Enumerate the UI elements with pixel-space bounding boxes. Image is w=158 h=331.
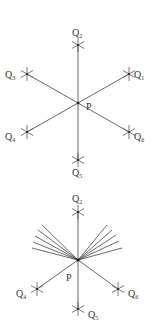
label-q3: Q3	[5, 69, 15, 81]
label-q6: Q6	[128, 288, 138, 300]
label-p: P	[86, 101, 92, 112]
label-q4: Q4	[16, 288, 26, 300]
label-q5: Q5	[72, 167, 82, 179]
fan-ray	[32, 248, 78, 260]
label-q6: Q6	[134, 131, 144, 143]
fan-ray	[33, 242, 78, 260]
label-q2: Q2	[72, 27, 82, 39]
line-p-q6	[78, 260, 118, 289]
line-p-q4	[37, 260, 78, 289]
fan-diagram: P Q2Q4Q5Q6	[16, 193, 138, 321]
label-q2: Q2	[72, 193, 82, 205]
label-q5: Q5	[88, 309, 98, 321]
fan-ray	[78, 225, 107, 260]
fan-ray	[38, 230, 78, 260]
label-q4: Q4	[5, 131, 15, 143]
label-q1: Q1	[134, 69, 144, 81]
fan-ray	[78, 235, 116, 260]
six-direction-star: P Q1Q2Q3Q4Q5Q6	[5, 27, 144, 179]
center-point-p	[77, 102, 80, 105]
label-p: P	[66, 272, 72, 283]
center-point-p	[77, 259, 80, 262]
geometry-diagram: P Q1Q2Q3Q4Q5Q6 P Q2Q4Q5Q6	[0, 0, 158, 331]
